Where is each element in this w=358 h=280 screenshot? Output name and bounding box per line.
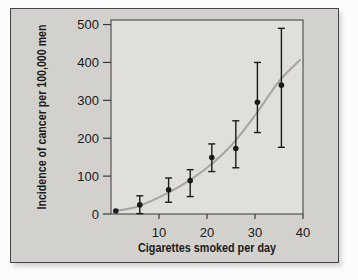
data-point: [137, 202, 143, 208]
data-point: [209, 155, 215, 161]
x-axis-title: Cigarettes smoked per day: [138, 240, 277, 255]
data-point: [255, 99, 261, 105]
plot-area: [111, 20, 303, 214]
figure-page: { "figure": { "page_bg": "#fcfcfc", "pan…: [0, 0, 358, 280]
y-tick-label: 400: [77, 55, 99, 70]
x-tick-label: 10: [152, 225, 166, 240]
y-tick-label: 0: [92, 207, 99, 222]
y-tick-label: 300: [77, 93, 99, 108]
data-point: [113, 208, 119, 214]
x-tick-label: 20: [200, 225, 214, 240]
y-tick-label: 100: [77, 169, 99, 184]
data-point: [233, 146, 239, 152]
y-tick-label: 500: [77, 17, 99, 32]
x-tick-label: 40: [296, 225, 310, 240]
y-tick-label: 200: [77, 131, 99, 146]
data-point: [187, 178, 193, 184]
x-tick-label: 30: [248, 225, 262, 240]
cancer-incidence-chart: 102030400100200300400500 Incidence of ca…: [11, 9, 338, 262]
y-axis-title: Incidence of cancer per 100,000 men: [34, 24, 49, 209]
data-point: [279, 82, 285, 88]
chart-panel: 102030400100200300400500 Incidence of ca…: [10, 8, 339, 263]
data-point: [166, 187, 172, 193]
